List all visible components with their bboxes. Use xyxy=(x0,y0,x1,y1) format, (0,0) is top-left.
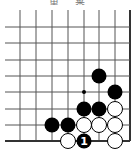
white-stone[interactable] xyxy=(108,118,123,133)
black-stone[interactable] xyxy=(92,102,107,117)
black-stone[interactable] xyxy=(92,69,107,84)
white-stone[interactable] xyxy=(61,134,76,149)
move-number-label: 1 xyxy=(80,135,88,148)
point-marker-dot xyxy=(82,90,86,94)
black-stone[interactable] xyxy=(77,102,92,117)
white-stone[interactable] xyxy=(77,118,92,133)
go-board[interactable]: 1 xyxy=(0,0,140,161)
black-stone[interactable]: 1 xyxy=(77,134,92,149)
white-stone[interactable] xyxy=(108,134,123,149)
white-stone[interactable] xyxy=(92,118,107,133)
black-stone[interactable] xyxy=(45,118,60,133)
white-stone[interactable] xyxy=(108,102,123,117)
black-stone[interactable] xyxy=(61,118,76,133)
black-stone[interactable] xyxy=(108,85,123,100)
